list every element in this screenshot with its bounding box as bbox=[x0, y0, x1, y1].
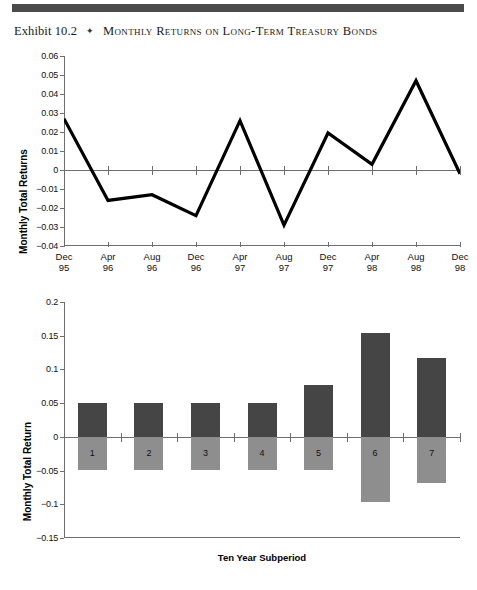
bar-chart-x-tick-mark bbox=[347, 433, 348, 442]
exhibit-title: Monthly Returns on Long-Term Treasury Bo… bbox=[103, 24, 377, 39]
bar-chart-y-tick-label: −0.1 bbox=[0, 499, 58, 509]
bar-chart-y-tick-mark bbox=[60, 538, 64, 539]
bar-positive bbox=[248, 403, 277, 437]
bar-positive bbox=[304, 385, 333, 437]
bar-chart-plot: 1234567 bbox=[64, 302, 460, 538]
bar-chart-y-tick-label: −0.05 bbox=[0, 466, 58, 476]
bar-category-label: 5 bbox=[316, 448, 321, 458]
bar-chart: Monthly Total Return 0.20.150.10.050−0.0… bbox=[0, 296, 477, 586]
bar-chart-x-tick-mark bbox=[290, 433, 291, 442]
bar-chart-x-axis bbox=[64, 537, 460, 538]
bar-chart-x-tick-mark bbox=[121, 433, 122, 442]
header-rule bbox=[12, 4, 464, 12]
bar-chart-y-tick-label: 0.15 bbox=[0, 331, 58, 341]
bar-category-label: 3 bbox=[203, 448, 208, 458]
line-chart-x-tick-label: Dec 95 bbox=[41, 252, 87, 273]
bar-chart-x-tick-mark bbox=[234, 433, 235, 442]
bar-chart-y-tick-label: 0.2 bbox=[0, 297, 58, 307]
line-chart-x-tick-label: Apr 96 bbox=[85, 252, 131, 273]
line-chart: Monthly Total Returns 0.060.050.040.030.… bbox=[0, 44, 477, 278]
bar-category-label: 2 bbox=[146, 448, 151, 458]
line-chart-x-tick-label: Aug 97 bbox=[261, 252, 307, 273]
bar-chart-y-tick-label: 0.05 bbox=[0, 398, 58, 408]
line-chart-x-tick-label: Aug 98 bbox=[393, 252, 439, 273]
bar-positive bbox=[417, 358, 446, 437]
bar-category-label: 7 bbox=[429, 448, 434, 458]
bar-chart-x-axis-label: Ten Year Subperiod bbox=[218, 552, 306, 563]
bar-category-label: 1 bbox=[90, 448, 95, 458]
line-chart-x-tick-label: Apr 97 bbox=[217, 252, 263, 273]
bar-chart-x-tick-mark bbox=[177, 433, 178, 442]
line-chart-x-tick-label: Dec 98 bbox=[437, 252, 477, 273]
bar-positive bbox=[361, 333, 390, 437]
bar-negative bbox=[417, 437, 446, 484]
bar-chart-y-tick-label: −0.15 bbox=[0, 533, 58, 543]
bar-positive bbox=[134, 403, 163, 437]
bar-chart-x-tick-mark bbox=[403, 433, 404, 442]
line-chart-series bbox=[64, 56, 460, 246]
bar-positive bbox=[78, 403, 107, 437]
line-chart-x-tick-mark bbox=[460, 242, 461, 247]
line-chart-plot bbox=[64, 56, 460, 246]
line-chart-y-tick-label: 0.01 bbox=[0, 146, 58, 156]
line-chart-x-tick-label: Dec 97 bbox=[305, 252, 351, 273]
bar-category-label: 6 bbox=[373, 448, 378, 458]
line-chart-y-tick-label: −0.01 bbox=[0, 184, 58, 194]
line-chart-y-tick-label: 0.06 bbox=[0, 51, 58, 61]
line-chart-y-tick-label: 0 bbox=[0, 165, 58, 175]
bar-category-label: 4 bbox=[259, 448, 264, 458]
exhibit-header: Exhibit 10.2 ✦ Monthly Returns on Long-T… bbox=[14, 22, 464, 40]
line-chart-y-tick-label: 0.05 bbox=[0, 70, 58, 80]
line-chart-x-tick-label: Dec 96 bbox=[173, 252, 219, 273]
line-chart-y-tick-label: 0.02 bbox=[0, 127, 58, 137]
line-chart-y-tick-label: −0.04 bbox=[0, 241, 58, 251]
bar-chart-y-tick-label: 0 bbox=[0, 432, 58, 442]
bar-positive bbox=[191, 403, 220, 437]
exhibit-number: Exhibit 10.2 bbox=[14, 24, 77, 39]
line-chart-y-tick-label: 0.03 bbox=[0, 108, 58, 118]
bar-chart-x-tick-mark bbox=[64, 433, 65, 442]
diamond-icon: ✦ bbox=[86, 27, 94, 36]
line-chart-y-tick-label: 0.04 bbox=[0, 89, 58, 99]
bar-chart-x-tick-mark bbox=[460, 433, 461, 442]
line-chart-y-tick-label: −0.03 bbox=[0, 222, 58, 232]
line-chart-y-tick-label: −0.02 bbox=[0, 203, 58, 213]
bar-negative bbox=[361, 437, 390, 502]
bar-chart-y-tick-label: 0.1 bbox=[0, 364, 58, 374]
bar-chart-y-axis bbox=[64, 302, 65, 538]
line-chart-x-tick-label: Aug 96 bbox=[129, 252, 175, 273]
line-chart-x-tick-label: Apr 98 bbox=[349, 252, 395, 273]
line-chart-x-tick-mark bbox=[460, 166, 461, 175]
